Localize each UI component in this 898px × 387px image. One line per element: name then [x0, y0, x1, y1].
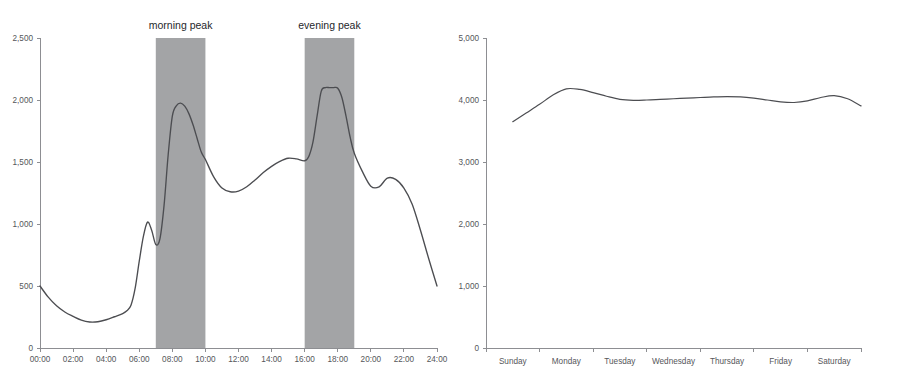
x-tick-label: 04:00	[96, 355, 117, 364]
day-tick-label: Saturday	[818, 357, 852, 366]
x-tick-label: 12:00	[228, 355, 249, 364]
y-tick-label: 1,000	[13, 220, 34, 229]
y-tick-label: 5,000	[459, 34, 480, 43]
x-tick-label: 00:00	[30, 355, 51, 364]
day-tick-label: Tuesday	[604, 357, 636, 366]
y-tick-label: 2,500	[13, 34, 34, 43]
weekly-series-group	[513, 88, 861, 121]
x-tick-label: 16:00	[294, 355, 315, 364]
daily-band-labels-group: morning peakevening peak	[149, 19, 362, 31]
day-tick-label: Thursday	[710, 357, 745, 366]
x-tick-label: 14:00	[261, 355, 282, 364]
x-tick-label: 08:00	[162, 355, 183, 364]
weekly-series-line	[513, 88, 861, 121]
y-tick-label: 0	[28, 344, 33, 353]
daily-chart-svg: 05001,0001,5002,0002,500 00:0002:0004:00…	[0, 0, 449, 387]
y-tick-label: 0	[474, 344, 479, 353]
x-tick-label: 10:00	[195, 355, 216, 364]
daily-load-profile-chart: 05001,0001,5002,0002,500 00:0002:0004:00…	[0, 0, 449, 387]
weekly-load-profile-chart: 01,0002,0003,0004,0005,000 SundayMondayT…	[449, 0, 898, 387]
peak-band-evening	[305, 38, 355, 348]
daily-peak-bands-group	[156, 38, 354, 348]
daily-series-line	[40, 87, 437, 322]
x-tick-label: 22:00	[394, 355, 415, 364]
daily-series-group	[40, 87, 437, 322]
weekly-y-axis: 01,0002,0003,0004,0005,000	[459, 34, 487, 353]
y-tick-label: 1,500	[13, 158, 34, 167]
peak-band-morning	[156, 38, 206, 348]
weekly-x-axis: SundayMondayTuesdayWednesdayThursdayFrid…	[486, 348, 861, 366]
weekly-chart-svg: 01,0002,0003,0004,0005,000 SundayMondayT…	[449, 0, 898, 387]
day-tick-label: Friday	[769, 357, 793, 366]
day-tick-label: Sunday	[499, 357, 528, 366]
x-tick-label: 18:00	[328, 355, 349, 364]
y-tick-label: 4,000	[459, 96, 480, 105]
y-tick-label: 2,000	[459, 220, 480, 229]
day-tick-label: Monday	[552, 357, 582, 366]
y-tick-label: 1,000	[459, 282, 480, 291]
x-tick-label: 20:00	[361, 355, 382, 364]
y-tick-label: 2,000	[13, 96, 34, 105]
day-tick-label: Wednesday	[652, 357, 696, 366]
x-tick-label: 02:00	[63, 355, 84, 364]
daily-y-axis: 05001,0001,5002,0002,500	[13, 34, 41, 353]
two-chart-figure: 05001,0001,5002,0002,500 00:0002:0004:00…	[0, 0, 898, 387]
band-label-morning: morning peak	[149, 19, 213, 31]
x-tick-label: 24:00	[427, 355, 448, 364]
y-tick-label: 3,000	[459, 158, 480, 167]
daily-x-axis: 00:0002:0004:0006:0008:0010:0012:0014:00…	[30, 348, 448, 364]
y-tick-label: 500	[19, 282, 33, 291]
x-tick-label: 06:00	[129, 355, 150, 364]
band-label-evening: evening peak	[298, 19, 361, 31]
